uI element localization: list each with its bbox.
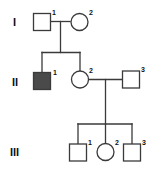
generation-label-one: I — [13, 16, 16, 28]
pedigree-chart: I II III 1 2 1 2 3 — [0, 0, 165, 169]
individual-ii2-id-label: 2 — [89, 67, 93, 74]
individual-ii3-male-square[interactable] — [123, 71, 140, 88]
individual-iii3-id-label: 3 — [142, 139, 146, 146]
individual-iii1-male-square[interactable] — [70, 144, 87, 161]
individual-ii2-female-circle[interactable] — [72, 71, 89, 88]
individual-iii2-female-circle[interactable] — [97, 144, 114, 161]
individual-iii1-id-label: 1 — [88, 139, 92, 146]
individual-i2-female-circle[interactable] — [71, 14, 88, 31]
individual-ii1-id-label: 1 — [53, 69, 57, 76]
individual-ii3-id-label: 3 — [141, 66, 145, 73]
individual-iii2-id-label: 2 — [115, 139, 119, 146]
individual-i1-male-square[interactable] — [34, 14, 51, 31]
individual-iii3-male-square[interactable] — [124, 144, 141, 161]
generation-label-two: II — [12, 76, 18, 88]
individual-i1-id-label: 1 — [52, 9, 56, 16]
generation-label-three: III — [10, 146, 19, 158]
individual-i2-id-label: 2 — [89, 9, 93, 16]
individual-ii1-male-square-affected[interactable] — [34, 73, 51, 90]
